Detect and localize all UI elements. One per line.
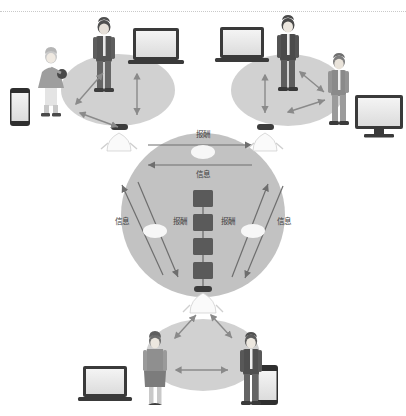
laptop-icon-bottom bbox=[78, 366, 132, 401]
laptop-icon-top-right bbox=[215, 27, 269, 62]
laptop-icon-top-left bbox=[128, 28, 184, 64]
label-right-information: 信息 bbox=[277, 216, 292, 226]
monitor-icon-top-right bbox=[355, 95, 403, 138]
node-agent-left bbox=[101, 124, 137, 151]
label-top-information: 信息 bbox=[196, 169, 211, 179]
block-3 bbox=[193, 238, 213, 255]
block-1 bbox=[193, 190, 213, 207]
label-top-reward: 报酬 bbox=[196, 129, 210, 139]
block-2 bbox=[193, 214, 213, 231]
label-left-information: 信息 bbox=[115, 216, 130, 226]
cluster-top-right-ellipse bbox=[231, 54, 345, 126]
blockchain-core bbox=[193, 190, 213, 286]
smartphone-icon-top-left bbox=[10, 88, 30, 126]
cluster-top-left-ellipse bbox=[61, 54, 175, 126]
label-right-reward: 报酬 bbox=[221, 216, 235, 226]
node-agent-right bbox=[247, 124, 283, 151]
edge-node-top bbox=[191, 145, 215, 159]
label-left-reward: 报酬 bbox=[173, 216, 187, 226]
diagram-canvas: 区块链 共享经济 生态 示意图 bbox=[0, 0, 406, 416]
block-4 bbox=[193, 262, 213, 279]
ecosystem-svg: 报酬 信息 信息 报酬 报酬 信息 bbox=[0, 0, 406, 416]
figure-business-man-2-top-right bbox=[328, 53, 349, 125]
edge-node-left bbox=[143, 224, 167, 238]
edge-node-right bbox=[241, 224, 265, 238]
